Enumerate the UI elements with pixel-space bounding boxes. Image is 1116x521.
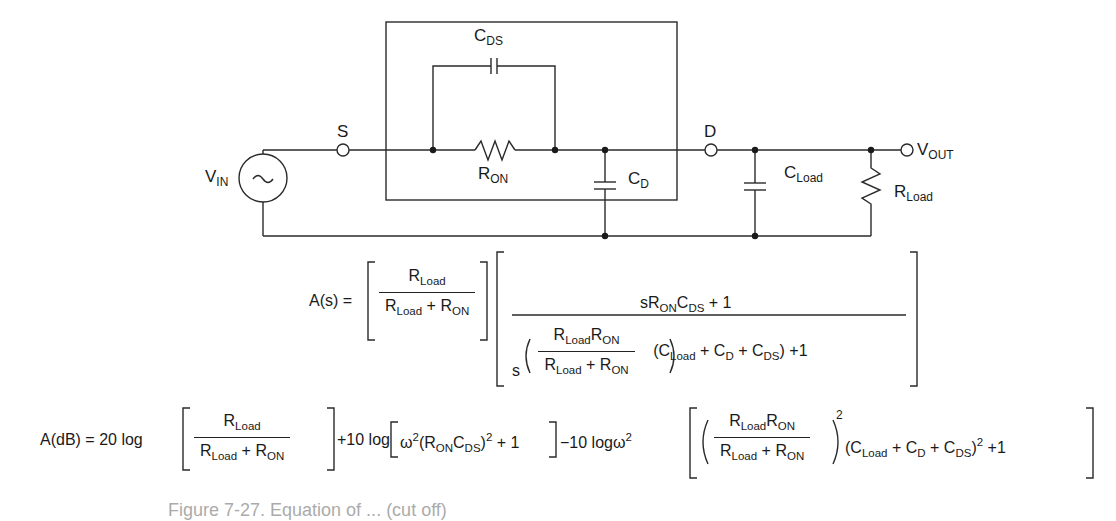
equation-adb-square: 2 bbox=[836, 409, 843, 421]
output-terminal bbox=[901, 144, 913, 156]
equation-as-lhs: A(s) = bbox=[309, 293, 352, 309]
equation-adb-term3-frac: RLoadRON RLoad + RON bbox=[708, 413, 816, 462]
equation-adb-term2-prefix: +10 log bbox=[337, 432, 390, 448]
resistor-rload-icon bbox=[862, 150, 880, 236]
figure-caption: Figure 7-27. Equation of ... (cut off) bbox=[168, 500, 447, 521]
terminal-s-label: S bbox=[337, 123, 348, 140]
equation-adb-term3-tail: (CLoad + CD + CDS)2 +1 bbox=[845, 437, 1006, 460]
equation-adb-lhs: A(dB) = 20 log bbox=[40, 432, 143, 448]
resistor-ron-icon bbox=[475, 141, 515, 160]
vin-label: VIN bbox=[205, 168, 228, 188]
rload-label: RLoad bbox=[894, 183, 933, 203]
equation-adb-term2: ω2(RONCDS)2 + 1 bbox=[400, 432, 519, 455]
equation-adb-term1: RLoad RLoad + RON bbox=[188, 413, 296, 462]
equation-as-denominator: s RLoadRON RLoad + RON (CLoad + CD + CDS… bbox=[512, 327, 808, 376]
equation-as-numerator: sRONCDS + 1 bbox=[640, 295, 732, 315]
equation-adb-term3-prefix: −10 logω2 bbox=[560, 432, 632, 451]
equation-as-term1: RLoad RLoad + RON bbox=[373, 268, 481, 317]
drain-terminal-d bbox=[705, 144, 717, 156]
vout-label: VOUT bbox=[917, 141, 954, 161]
ron-label: RON bbox=[478, 165, 508, 185]
terminal-d-label: D bbox=[704, 123, 716, 140]
source-terminal-s bbox=[337, 144, 349, 156]
junction-dots bbox=[430, 147, 874, 239]
cds-label: CDS bbox=[474, 27, 503, 47]
cload-label: CLoad bbox=[784, 164, 823, 184]
cd-label: CD bbox=[628, 170, 649, 190]
